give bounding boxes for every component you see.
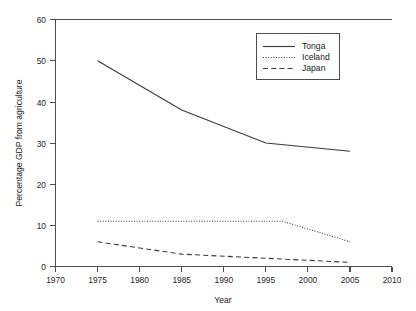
x-tick-label: 1970 [46,275,65,285]
y-tick-60: 60 [37,15,56,25]
y-tick-0: 0 [41,262,55,272]
x-tick-label: 2000 [299,275,318,285]
x-tick-2010: 2010 [383,267,402,286]
x-tick-1995: 1995 [256,267,275,286]
y-tick-10: 10 [37,221,56,231]
y-tick-label: 50 [37,56,47,66]
x-tick-1980: 1980 [130,267,149,286]
y-tick-40: 40 [37,98,56,108]
y-tick-label: 60 [37,15,47,25]
x-axis-ticks: 1970 1975 1980 1985 1990 1995 [46,267,401,286]
legend-label: Tonga [302,41,326,51]
x-tick-1970: 1970 [46,267,65,286]
x-tick-label: 1980 [130,275,149,285]
chart-container: 0 10 20 30 40 50 [0,0,416,311]
data-series-group [98,61,350,263]
y-tick-label: 20 [37,180,47,190]
y-tick-label: 40 [37,98,47,108]
x-tick-2005: 2005 [341,267,360,286]
x-tick-2000: 2000 [299,267,318,286]
x-tick-label: 1995 [256,275,275,285]
legend-label: Japan [302,63,326,73]
chart-legend: Tonga Iceland Japan [257,34,340,80]
x-tick-1975: 1975 [88,267,107,286]
line-chart: 0 10 20 30 40 50 [0,0,416,311]
x-tick-label: 1985 [172,275,191,285]
legend-label: Iceland [302,52,330,62]
series-line-iceland [98,221,350,242]
y-tick-50: 50 [37,56,56,66]
y-tick-20: 20 [37,180,56,190]
y-tick-label: 30 [37,139,47,149]
chart-axes [56,19,393,267]
y-tick-label: 0 [41,262,46,272]
y-tick-30: 30 [37,139,56,149]
x-tick-label: 1975 [88,275,107,285]
x-axis-title: Year [214,295,232,305]
y-axis-title: Percentage GDP from agriculture [14,79,24,206]
x-tick-1985: 1985 [172,267,191,286]
x-tick-label: 1990 [214,275,233,285]
y-axis-ticks: 0 10 20 30 40 50 [37,15,56,272]
x-tick-label: 2010 [383,275,402,285]
x-tick-label: 2005 [341,275,360,285]
series-line-japan [98,242,350,263]
x-tick-1990: 1990 [214,267,233,286]
y-tick-label: 10 [37,221,47,231]
